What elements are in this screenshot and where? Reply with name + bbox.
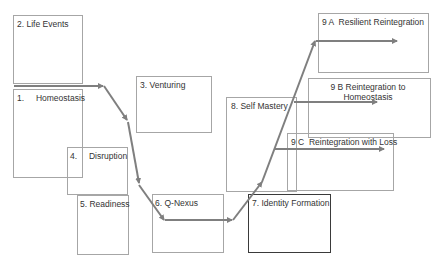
node-venturing-label: 3. Venturing xyxy=(140,80,185,90)
node-homeostasis-label: 1. Homeostasis xyxy=(17,93,85,103)
node-identity-formation-label: 7. Identity Formation xyxy=(252,198,329,208)
node-9a-text: 9 A Resilient Reintegration xyxy=(322,17,424,27)
node-reintegration-loss-label: 9 C Reintegration with Loss xyxy=(291,137,397,147)
node-readiness-label: 5. Readiness xyxy=(80,199,130,209)
node-self-mastery-label: 8. Self Mastery xyxy=(231,101,288,111)
node-9c-text: 9 C Reintegration with Loss xyxy=(291,137,397,147)
node-resilient-reintegration-label: 9 A Resilient Reintegration xyxy=(322,17,424,27)
arrow-to-disruption xyxy=(104,86,127,120)
node-homeostasis-text: 1. Homeostasis xyxy=(17,93,85,103)
node-disruption-label: 4. Disruption xyxy=(70,151,127,161)
node-life-events-label: 2. Life Events xyxy=(17,19,69,29)
node-reintegration-homeostasis-label: 9 B Reintegration to Homeostasis xyxy=(318,82,418,102)
node-disruption-text: 4. Disruption xyxy=(70,151,127,161)
node-q-nexus-label: 6. Q-Nexus xyxy=(155,198,198,208)
